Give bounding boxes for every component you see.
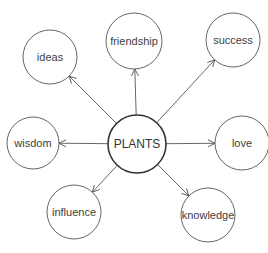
node-influence: influence <box>47 185 101 239</box>
node-success: success <box>206 13 260 67</box>
node-label: influence <box>52 206 96 218</box>
node-label: knowledge <box>182 209 235 221</box>
node-ideas: ideas <box>23 30 77 84</box>
node-label: success <box>213 34 253 46</box>
node-label: friendship <box>110 35 158 47</box>
node-label: love <box>232 137 252 149</box>
node-friendship: friendship <box>106 13 162 69</box>
arrow-plants-to-wisdom <box>59 143 108 144</box>
arrow-plants-to-success <box>157 60 215 123</box>
arrow-plants-to-knowledge <box>158 165 189 196</box>
node-knowledge: knowledge <box>181 188 235 242</box>
node-label: wisdom <box>13 137 51 149</box>
arrow-plants-to-ideas <box>69 76 116 123</box>
arrow-plants-to-influence <box>92 165 117 192</box>
node-love: love <box>215 116 268 170</box>
arrow-plants-to-friendship <box>135 69 136 115</box>
mind-map-diagram: ideasfriendshipsuccesswisdomloveinfluenc… <box>0 0 268 253</box>
node-label: ideas <box>37 51 64 63</box>
center-label: PLANTS <box>114 137 161 151</box>
node-wisdom: wisdom <box>7 117 59 169</box>
center-node: PLANTS <box>108 115 166 173</box>
